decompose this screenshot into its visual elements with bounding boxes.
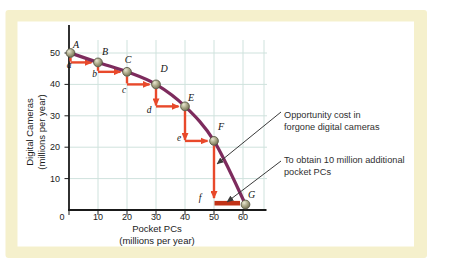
x-axis-title-line2: (millions per year)	[77, 235, 237, 247]
point-dot-B	[94, 58, 103, 67]
step-label-b: b	[92, 69, 97, 79]
y-tick-label: 30	[50, 111, 60, 121]
y-tick-label: 40	[50, 79, 60, 89]
y-tick-label: 10	[50, 174, 60, 184]
point-label-F: F	[217, 121, 225, 132]
point-dot-G	[241, 200, 250, 209]
ppf-figure: 01020304050601020304050ABCDEFGabcdef Dig…	[0, 0, 449, 268]
step-label-e: e	[177, 133, 181, 143]
annotation-opportunity-cost-line2: forgone digital cameras	[284, 122, 380, 134]
annotation-obtain-pcs-line1: To obtain 10 million additional	[284, 155, 405, 167]
x-tick-label: 50	[209, 212, 219, 222]
point-label-E: E	[187, 92, 194, 103]
point-label-C: C	[125, 54, 132, 65]
annotation-obtain-pcs: To obtain 10 million additional pocket P…	[284, 155, 405, 178]
x-tick-label: 0	[59, 212, 64, 222]
point-dot-F	[210, 137, 219, 146]
point-dot-C	[123, 67, 132, 76]
point-label-A: A	[72, 39, 80, 50]
point-label-B: B	[102, 46, 108, 57]
x-axis-title-line1: Pocket PCs	[77, 223, 237, 235]
x-tick-label: 40	[180, 212, 190, 222]
y-axis-title-line2: (millions per year)	[36, 47, 48, 217]
annotation-obtain-pcs-line2: pocket PCs	[284, 167, 405, 179]
y-axis-title-line1: Digital Cameras	[24, 47, 36, 217]
point-label-D: D	[159, 63, 168, 74]
point-dot-D	[152, 80, 161, 89]
x-axis-title: Pocket PCs (millions per year)	[77, 223, 237, 247]
x-tick-label: 10	[93, 212, 103, 222]
step-label-d: d	[147, 105, 152, 115]
annotation-opportunity-cost-line1: Opportunity cost in	[284, 110, 380, 122]
point-label-G: G	[248, 189, 255, 200]
y-tick-label: 50	[50, 48, 60, 58]
y-tick-label: 20	[50, 142, 60, 152]
x-tick-label: 30	[151, 212, 161, 222]
point-dot-E	[181, 102, 190, 111]
x-tick-label: 20	[122, 212, 132, 222]
annotation-opportunity-cost: Opportunity cost in forgone digital came…	[284, 110, 380, 133]
y-axis-title: Digital Cameras (millions per year)	[24, 47, 48, 217]
step-label-a: a	[67, 60, 72, 70]
x-tick-label: 60	[238, 212, 248, 222]
